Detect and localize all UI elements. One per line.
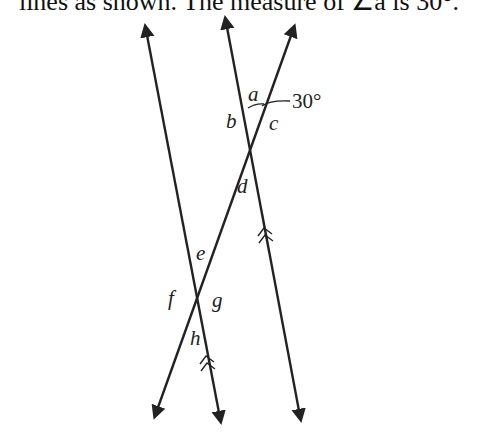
parallel-line-right: [226, 22, 300, 416]
label-e: e: [196, 241, 205, 265]
label-c: c: [269, 111, 279, 135]
transversal-line: [156, 30, 293, 413]
label-d: d: [237, 174, 248, 198]
parallel-lines-diagram: 30° a b c d e f g h: [0, 0, 478, 448]
parallel-line-left: [146, 30, 220, 418]
angle-value-label: 30°: [292, 89, 321, 113]
label-h: h: [190, 326, 201, 350]
label-b: b: [226, 109, 237, 133]
label-f: f: [168, 286, 177, 310]
label-a: a: [248, 82, 259, 106]
label-g: g: [212, 288, 223, 312]
